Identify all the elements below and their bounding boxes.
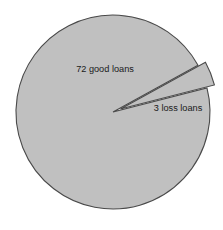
pie-label-good-loans: 72 good loans bbox=[76, 64, 134, 74]
pie-chart: 72 good loans 3 loss loans bbox=[0, 0, 223, 230]
pie-label-loss-loans: 3 loss loans bbox=[154, 103, 203, 113]
pie-chart-canvas: 72 good loans 3 loss loans bbox=[0, 0, 223, 230]
